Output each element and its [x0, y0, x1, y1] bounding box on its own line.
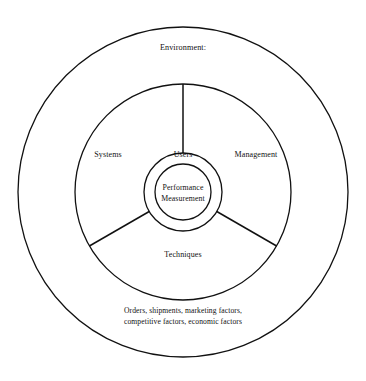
core-label-line-2: Measurement — [138, 193, 228, 204]
environment-label: Environment: — [0, 43, 366, 53]
sector-label-techniques: Techniques — [123, 250, 243, 260]
spoke-lower-right-divider — [217, 212, 277, 247]
external-factors-line-1: Orders, shipments, marketing factors, — [33, 305, 333, 316]
diagram-canvas: Environment: Orders, shipments, marketin… — [0, 0, 366, 381]
spoke-lower-left-divider — [89, 212, 149, 247]
external-factors-label: Orders, shipments, marketing factors, co… — [33, 305, 333, 327]
external-factors-line-2: competitive factors, economic factors — [33, 316, 333, 327]
core-label-line-1: Performance — [138, 182, 228, 193]
inner-ring-label-users: Users — [153, 150, 213, 160]
sector-label-management: Management — [210, 150, 302, 160]
sector-label-systems: Systems — [68, 150, 148, 160]
core-label: Performance Measurement — [138, 182, 228, 205]
